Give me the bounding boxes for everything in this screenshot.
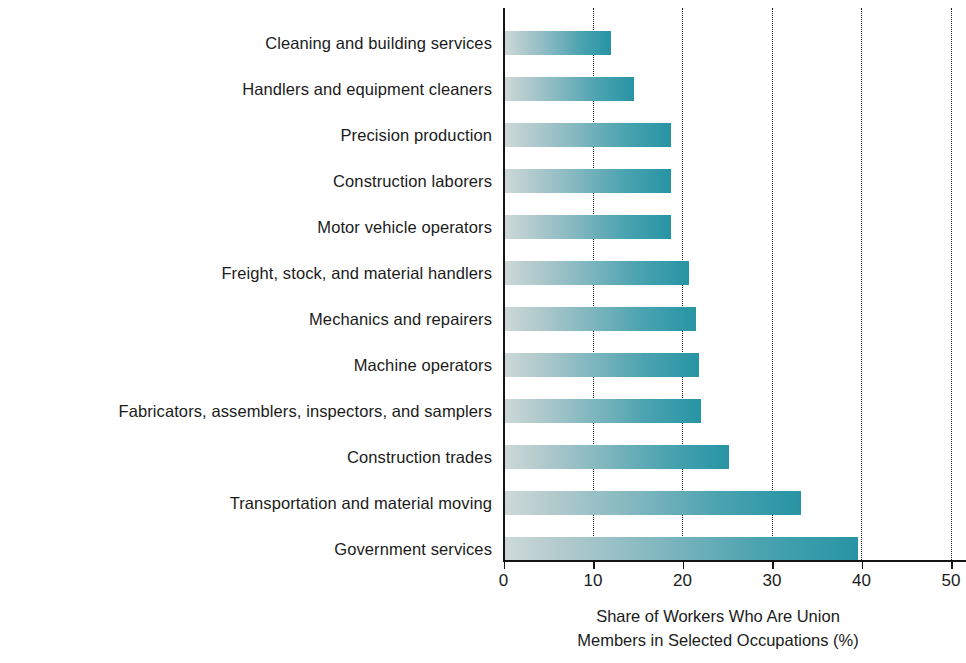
x-tick-label: 20	[663, 571, 703, 591]
union-membership-bar-chart: Cleaning and building servicesHandlers a…	[0, 0, 966, 663]
bar	[505, 537, 858, 561]
x-axis-title-line-2: Members in Selected Occupations (%)	[503, 628, 933, 652]
gridline-30	[772, 8, 773, 560]
gridline-40	[861, 8, 862, 560]
bar	[505, 215, 671, 239]
bar	[505, 491, 801, 515]
bar	[505, 169, 671, 193]
bar	[505, 353, 699, 377]
category-label: Machine operators	[0, 355, 492, 375]
category-label-column: Cleaning and building servicesHandlers a…	[0, 0, 492, 560]
category-label: Freight, stock, and material handlers	[0, 263, 492, 283]
x-tick-0	[504, 560, 506, 569]
x-tick-label: 0	[484, 571, 524, 591]
category-label: Fabricators, assemblers, inspectors, and…	[0, 401, 492, 421]
x-tick-30	[772, 560, 774, 569]
x-axis-line	[503, 560, 966, 562]
category-label: Construction trades	[0, 447, 492, 467]
x-tick-20	[683, 560, 685, 569]
category-label: Construction laborers	[0, 171, 492, 191]
bar	[505, 307, 696, 331]
x-tick-label: 30	[752, 571, 792, 591]
x-axis-title: Share of Workers Who Are Union Members i…	[503, 604, 933, 652]
category-label: Precision production	[0, 125, 492, 145]
x-tick-label: 50	[931, 571, 966, 591]
x-tick-10	[593, 560, 595, 569]
x-axis-title-line-1: Share of Workers Who Are Union	[503, 604, 933, 628]
bar	[505, 77, 634, 101]
bar	[505, 399, 701, 423]
bar	[505, 123, 671, 147]
category-label: Handlers and equipment cleaners	[0, 79, 492, 99]
bar	[505, 31, 611, 55]
category-label: Mechanics and repairers	[0, 309, 492, 329]
x-tick-label: 40	[842, 571, 882, 591]
bar	[505, 261, 689, 285]
category-label: Motor vehicle operators	[0, 217, 492, 237]
category-label: Transportation and material moving	[0, 493, 492, 513]
x-tick-50	[951, 560, 953, 569]
x-tick-label: 10	[573, 571, 613, 591]
plot-area	[503, 8, 966, 560]
category-label: Government services	[0, 539, 492, 559]
x-tick-40	[862, 560, 864, 569]
bar	[505, 445, 729, 469]
category-label: Cleaning and building services	[0, 33, 492, 53]
gridline-50	[951, 8, 952, 560]
